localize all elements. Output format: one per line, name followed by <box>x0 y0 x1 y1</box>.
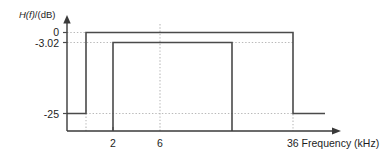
response-curve-outer-0db <box>67 33 325 114</box>
horizontal-guides <box>67 33 325 114</box>
y-axis-label: H(f)/(dB) <box>19 9 55 20</box>
xtick-label-2khz: 2 <box>110 137 116 149</box>
y-axis-label-unit: /(dB) <box>35 9 56 20</box>
tick-marks <box>63 33 113 132</box>
xtick-label-6khz: 6 <box>157 137 163 149</box>
response-curve-inner-minus3db <box>113 43 232 132</box>
x-axis-arrowhead <box>332 127 341 134</box>
ytick-label-minus3db: -3.02 <box>35 37 59 49</box>
y-axis-label-function: H(f) <box>19 9 35 20</box>
frequency-response-chart: H(f)/(dB) 0 -3.02 -25 2 6 36 Frequency (… <box>0 0 391 161</box>
ytick-label-minus25db: -25 <box>44 108 59 120</box>
vertical-guides <box>86 24 293 133</box>
x-axis-caption: 36 Frequency (kHz) <box>287 137 379 149</box>
frequency-response-figure: H(f)/(dB) 0 -3.02 -25 2 6 36 Frequency (… <box>0 0 391 161</box>
y-axis-arrowhead <box>63 15 70 24</box>
